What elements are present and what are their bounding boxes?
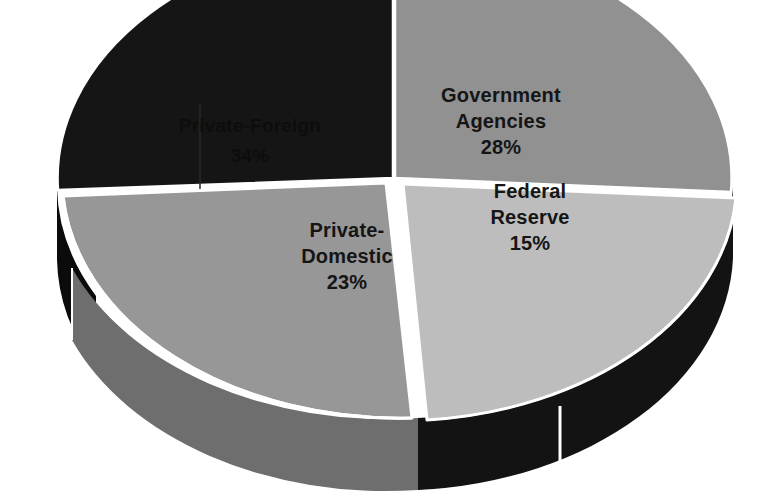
slice-top-federal-reserve [403, 184, 736, 420]
pie-chart-canvas [0, 0, 776, 502]
pie-chart-3d: Government Agencies 28% Federal Reserve … [0, 0, 776, 502]
slice-top-government-agencies [395, 0, 732, 192]
